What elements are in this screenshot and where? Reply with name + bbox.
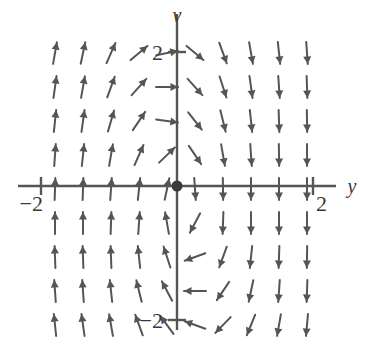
field-arrow [107,246,115,268]
field-arrow [189,146,201,164]
field-arrow [217,282,229,300]
field-arrow [247,178,255,200]
arrow-head [162,212,170,220]
field-arrow [162,281,172,300]
arrow-head [247,158,255,166]
arrow-head [275,260,283,268]
arrow-head [303,193,311,201]
arrow-head [80,42,88,50]
field-arrow [215,317,230,333]
field-arrow [220,77,228,98]
arrow-head [275,193,283,201]
arrow-head [275,90,283,98]
direction-field-plot: 2−22−2 vy [0,0,378,345]
field-arrow [248,42,256,64]
arrow-head [52,42,60,50]
arrow-head [79,144,87,152]
field-arrow [134,280,142,301]
tick-label: 2 [152,40,163,65]
arrow-head [274,328,282,336]
arrow-head [51,178,59,186]
field-arrow [133,112,145,130]
arrow-head [303,56,311,64]
field-arrow [185,320,206,329]
arrow-head [106,314,114,322]
arrow-head [107,212,115,220]
field-arrow [303,314,311,336]
arrow-head [80,76,88,84]
field-arrow [159,147,175,162]
arrow-head [191,192,199,200]
arrow-head [303,159,311,167]
field-arrow [275,212,283,234]
origin-equilibrium-point [172,181,183,192]
field-arrow [135,145,145,165]
arrow-head [51,110,59,118]
field-arrow [246,280,254,302]
field-arrow [51,212,59,234]
tick-v-negative-2: −2 [140,308,186,333]
field-arrow [156,83,178,91]
field-arrow [107,43,117,63]
arrow-head [303,227,311,235]
arrow-head [51,314,59,322]
arrow-head [303,124,311,132]
arrow-head [275,56,283,64]
arrow-head [303,260,311,268]
arrow-head [275,227,283,235]
field-arrow [303,280,311,302]
arrow-head [303,328,311,336]
field-arrow [218,247,227,268]
arrow-head [134,280,142,288]
arrow-head [247,124,255,132]
field-arrow [184,287,206,295]
field-arrow [191,178,199,200]
field-arrow [303,246,311,268]
field-arrow [247,144,255,166]
axis-labels-layer: vy [173,4,357,198]
field-arrow [135,178,143,200]
field-arrow [275,280,283,302]
field-arrow [247,212,255,234]
field-arrow [247,110,255,132]
field-arrow [162,212,170,234]
tick-v-positive-2: 2 [152,40,186,65]
direction-field-figure: 2−22−2 vy [0,0,378,345]
field-arrow [219,212,227,234]
field-arrow [275,246,283,268]
arrow-head [135,178,143,186]
arrow-head [248,56,256,64]
arrow-head [275,294,283,302]
tick-label: −2 [140,308,163,333]
arrow-head [184,287,192,295]
field-arrow [79,144,87,166]
arrow-head [79,212,87,220]
field-arrow [79,280,87,302]
field-arrow [219,43,228,64]
arrow-head [51,144,59,152]
arrow-head [107,178,115,186]
tick-label: 2 [316,191,327,216]
field-arrow [188,112,202,129]
field-arrow [80,110,88,132]
tick-y-negative-2: −2 [20,177,43,216]
field-arrow [164,178,172,200]
field-arrow [79,246,87,268]
arrow-head [135,212,143,220]
field-arrow [188,79,203,95]
arrow-head [51,280,59,288]
field-arrow [303,178,311,200]
field-arrow [107,280,115,302]
field-arrow [303,42,311,64]
field-arrow [248,76,256,98]
field-arrow [51,246,59,268]
field-arrow [135,246,143,268]
field-arrow [275,42,283,64]
field-arrow [107,212,115,234]
field-arrow [303,110,311,132]
field-arrow [108,110,116,131]
v-axis-label: v [173,4,182,26]
arrow-head [79,280,87,288]
field-arrow [107,178,115,200]
field-arrow [275,76,283,98]
